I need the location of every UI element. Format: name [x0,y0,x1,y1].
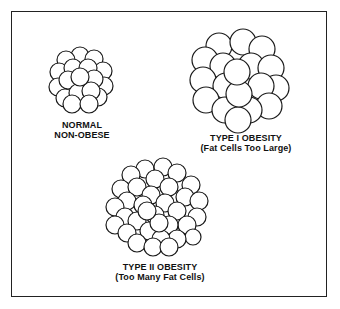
fat-cells [106,158,208,256]
type2-label: TYPE II OBESITY (Too Many Fat Cells) [100,262,220,282]
fat-cells [49,47,113,113]
normal-label: NORMAL NON-OBESE [36,120,128,140]
type2-fat-cell-cluster [107,159,209,257]
fat-cells [190,29,289,133]
type1-fat-cell-cluster [191,28,291,130]
type1-label-title: TYPE I OBESITY [186,133,306,143]
normal-label-title: NORMAL [36,120,128,130]
normal-label-subtitle: NON-OBESE [36,130,128,140]
type1-label: TYPE I OBESITY (Fat Cells Too Large) [186,133,306,153]
type2-label-subtitle: (Too Many Fat Cells) [100,272,220,282]
type2-label-title: TYPE II OBESITY [100,262,220,272]
normal-fat-cell-cluster [48,46,114,114]
type1-label-subtitle: (Fat Cells Too Large) [186,143,306,153]
